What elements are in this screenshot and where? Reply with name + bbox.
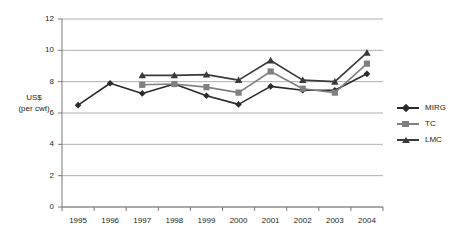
- data-point-marker: [203, 84, 209, 90]
- data-point-marker: [364, 71, 371, 78]
- legend-line: [397, 139, 419, 141]
- data-point-marker: [300, 86, 306, 92]
- data-point-marker: [139, 90, 146, 97]
- data-point-marker: [171, 81, 177, 87]
- legend-line: [397, 123, 419, 125]
- data-point-marker: [203, 92, 210, 99]
- plot-area: [0, 0, 457, 243]
- legend-item-tc[interactable]: TC: [397, 119, 436, 128]
- y-tick-label: 2: [38, 171, 54, 180]
- legend-marker-square-icon: [402, 121, 409, 127]
- y-tick-label: 10: [38, 45, 54, 54]
- data-point-marker: [268, 68, 274, 74]
- legend-item-mirg[interactable]: MIRG: [397, 103, 446, 112]
- legend-line: [397, 107, 419, 109]
- legend-marker-triangle-icon: [402, 137, 410, 143]
- y-tick-label: 4: [38, 139, 54, 148]
- data-point-marker: [139, 82, 145, 88]
- y-tick-label: 6: [38, 108, 54, 117]
- data-point-marker: [364, 61, 370, 67]
- x-tick-label: 2004: [347, 216, 387, 225]
- legend-marker-diamond-icon: [402, 103, 410, 111]
- legend-label: TC: [425, 119, 436, 128]
- y-tick-label: 8: [38, 77, 54, 86]
- data-point-marker: [267, 83, 274, 90]
- data-point-marker: [235, 101, 242, 108]
- data-point-marker: [267, 57, 274, 64]
- line-chart: US$ (per cwt) 024681012 1995199619971998…: [0, 0, 457, 243]
- data-point-marker: [235, 90, 241, 96]
- legend-label: MIRG: [425, 103, 446, 112]
- legend-label: LMC: [425, 135, 442, 144]
- y-tick-label: 0: [38, 202, 54, 211]
- y-tick-label: 12: [38, 14, 54, 23]
- data-point-marker: [332, 90, 338, 96]
- legend-item-lmc[interactable]: LMC: [397, 135, 442, 144]
